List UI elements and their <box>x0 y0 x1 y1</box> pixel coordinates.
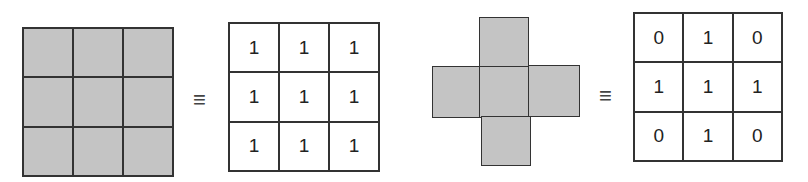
shape-cell <box>23 77 73 126</box>
matrix-cell: 1 <box>329 122 379 171</box>
matrix-cell: 1 <box>229 72 279 121</box>
shape-cell <box>123 28 173 77</box>
matrix-cell: 1 <box>279 122 329 171</box>
matrix-cell: 1 <box>229 122 279 171</box>
matrix-cell: 0 <box>733 13 782 62</box>
equivalence-symbol: ≡ <box>599 85 612 107</box>
matrix-cell: 1 <box>683 62 732 111</box>
shape-cell <box>123 77 173 126</box>
shape-cell <box>73 28 123 77</box>
cross-top-arm <box>479 17 529 68</box>
equivalence-symbol: ≡ <box>193 89 206 111</box>
matrix-cell: 1 <box>329 23 379 72</box>
cross-right-arm <box>528 65 580 117</box>
cross-bottom-arm <box>481 116 531 166</box>
cross-center <box>479 66 530 118</box>
square-shape <box>22 27 174 177</box>
shape-cell <box>23 127 73 176</box>
matrix-cell: 0 <box>634 112 683 161</box>
matrix-cell: 1 <box>279 72 329 121</box>
shape-cell <box>73 127 123 176</box>
shape-cell <box>73 77 123 126</box>
shape-cell <box>123 127 173 176</box>
cross-left-arm <box>432 66 481 118</box>
cross-matrix: 0 1 0 1 1 1 0 1 0 <box>633 12 783 162</box>
matrix-cell: 1 <box>683 13 732 62</box>
matrix-cell: 1 <box>733 62 782 111</box>
square-matrix: 1 1 1 1 1 1 1 1 1 <box>228 22 380 172</box>
matrix-cell: 0 <box>733 112 782 161</box>
matrix-cell: 1 <box>229 23 279 72</box>
matrix-cell: 1 <box>683 112 732 161</box>
matrix-cell: 1 <box>329 72 379 121</box>
matrix-cell: 0 <box>634 13 683 62</box>
matrix-cell: 1 <box>279 23 329 72</box>
shape-cell <box>23 28 73 77</box>
matrix-cell: 1 <box>634 62 683 111</box>
